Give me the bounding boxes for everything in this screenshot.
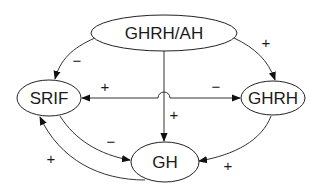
sign-ghrhah-srif: − [73,52,82,69]
sign-ghrhah-gh: + [170,106,179,123]
node-label: GHRH/AH [125,24,203,43]
node-srif: SRIF [17,80,81,116]
node-gh: GH [131,142,199,182]
edge-ghrh-to-gh [199,116,271,161]
sign-ghrhah-ghrh: + [262,34,271,51]
node-label: SRIF [30,89,69,108]
node-label: GHRH [248,89,298,108]
sign-to-ghrh: − [212,78,221,95]
sign-gh-srif: + [47,150,56,167]
sign-to-srif: + [101,78,110,95]
sign-ghrh-gh: + [224,157,233,174]
hormone-feedback-diagram: GHRH/AH SRIF GHRH GH − + + − + − + + [0,0,325,189]
node-label: GH [152,153,178,172]
node-ghrh: GHRH [241,81,305,115]
node-ghrh-ah: GHRH/AH [91,15,237,51]
edge-srif-to-gh [60,116,130,160]
edge-gh-to-srif [40,117,145,180]
sign-srif-gh: − [107,133,116,150]
